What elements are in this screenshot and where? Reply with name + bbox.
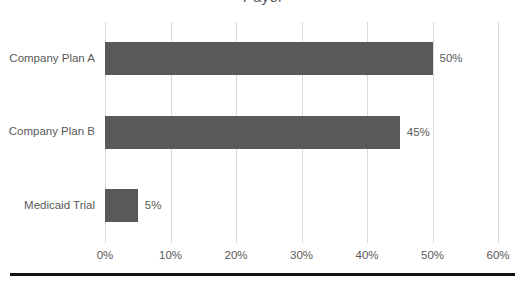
bar-row: 50%	[105, 22, 498, 96]
plot-area: 50%45%5%	[105, 22, 498, 243]
bar-row: 45%	[105, 96, 498, 170]
x-axis-tick-labels: 0%10%20%30%40%50%60%	[105, 249, 498, 267]
x-tick-label-60%: 60%	[486, 249, 509, 261]
bar-series: 50%45%5%	[105, 22, 498, 243]
bar-2[interactable]	[105, 116, 400, 149]
category-label-1: Company Plan A	[0, 52, 100, 64]
bar-value-label: 50%	[433, 42, 463, 75]
x-tick-label-30%: 30%	[290, 249, 313, 261]
category-label-3: Medicaid Trial	[0, 199, 100, 211]
chart-title: Payer	[0, 0, 526, 5]
bar-1[interactable]	[105, 42, 433, 75]
x-tick-label-50%: 50%	[421, 249, 444, 261]
bar-chart: Payer Company Plan ACompany Plan BMedica…	[0, 0, 526, 285]
x-tick-label-0%: 0%	[97, 249, 114, 261]
bar-3[interactable]	[105, 189, 138, 222]
y-axis-category-labels: Company Plan ACompany Plan BMedicaid Tri…	[0, 22, 100, 243]
x-tick-label-40%: 40%	[355, 249, 378, 261]
x-tick-label-20%: 20%	[224, 249, 247, 261]
category-label-2: Company Plan B	[0, 125, 100, 137]
x-tick-label-10%: 10%	[159, 249, 182, 261]
bottom-divider-rule	[10, 273, 515, 276]
bar-row: 5%	[105, 169, 498, 243]
bar-value-label: 45%	[400, 116, 430, 149]
bar-value-label: 5%	[138, 189, 162, 222]
gridline-60%	[498, 22, 499, 243]
